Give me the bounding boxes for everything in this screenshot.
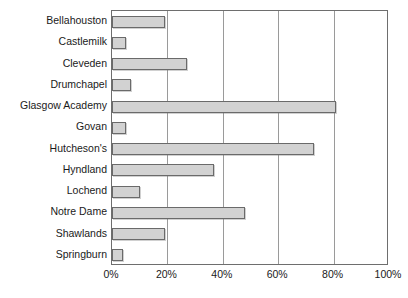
x-axis-tick-label: 60%: [267, 268, 288, 280]
bar-row: [112, 245, 387, 266]
x-axis-tick-label: 40%: [211, 268, 232, 280]
bar-row: [112, 139, 387, 160]
bar: [112, 186, 140, 198]
bar-row: [112, 224, 387, 245]
plot-area: [111, 10, 388, 265]
bar: [112, 58, 187, 70]
y-axis-label: Cleveden: [63, 53, 107, 74]
y-axis-label: Govan: [76, 116, 107, 137]
bar: [112, 16, 165, 28]
y-axis-label: Hutcheson's: [50, 138, 107, 159]
x-axis-tick-label: 20%: [156, 268, 177, 280]
y-axis-label: Glasgow Academy: [20, 95, 107, 116]
bar-row: [112, 117, 387, 138]
x-axis-tick-label: 0%: [103, 268, 118, 280]
y-axis-label: Castlemilk: [59, 31, 107, 52]
bar: [112, 207, 245, 219]
y-axis-label: Hyndland: [63, 159, 107, 180]
bar-row: [112, 181, 387, 202]
bar-row: [112, 11, 387, 32]
bar-row: [112, 54, 387, 75]
y-axis-label: Bellahouston: [46, 10, 107, 31]
bar-row: [112, 160, 387, 181]
bar: [112, 228, 165, 240]
x-axis-labels: 0%20%40%60%80%100%: [111, 268, 388, 288]
bar: [112, 143, 314, 155]
bar: [112, 37, 126, 49]
y-axis-label: Springburn: [56, 244, 107, 265]
bar-row: [112, 96, 387, 117]
y-axis-labels: BellahoustonCastlemilkClevedenDrumchapel…: [0, 10, 107, 265]
x-axis-tick-label: 80%: [322, 268, 343, 280]
y-axis-label: Shawlands: [56, 223, 107, 244]
y-axis-label: Drumchapel: [50, 74, 107, 95]
bar-row: [112, 202, 387, 223]
bar: [112, 122, 126, 134]
bar: [112, 79, 131, 91]
y-axis-label: Notre Dame: [50, 201, 107, 222]
bar-row: [112, 75, 387, 96]
x-axis-tick-label: 100%: [375, 268, 402, 280]
bar: [112, 101, 336, 113]
y-axis-label: Lochend: [67, 180, 107, 201]
bar: [112, 164, 214, 176]
bar: [112, 249, 123, 261]
bar-chart: BellahoustonCastlemilkClevedenDrumchapel…: [0, 0, 408, 298]
bar-row: [112, 32, 387, 53]
